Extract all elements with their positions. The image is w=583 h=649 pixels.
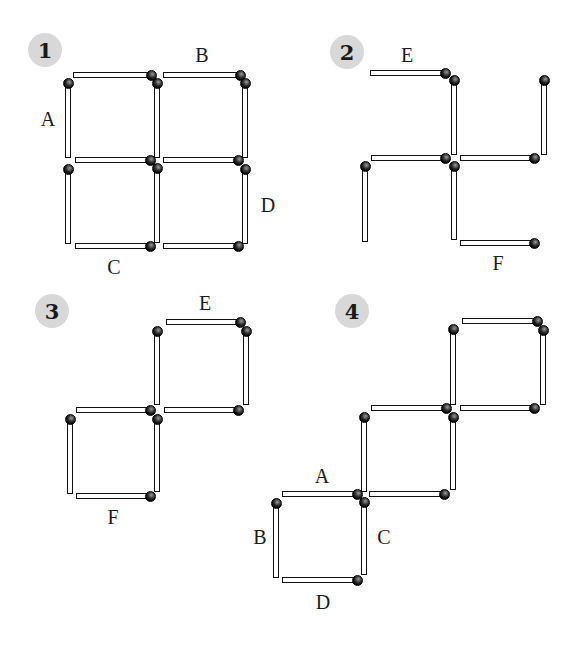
match-head-icon bbox=[360, 161, 371, 172]
matchstick bbox=[450, 328, 456, 405]
match-head-icon bbox=[240, 78, 251, 89]
matchstick bbox=[65, 168, 71, 244]
matchstick-label-d: D bbox=[316, 592, 330, 612]
matchstick-diagram: 1ABCD2EF3EF4ABCD bbox=[0, 0, 583, 649]
matchstick bbox=[73, 72, 152, 78]
figure-number-badge: 1 bbox=[28, 33, 62, 67]
matchstick bbox=[361, 501, 367, 575]
matchstick bbox=[242, 168, 248, 244]
match-head-icon bbox=[152, 163, 163, 174]
match-head-icon bbox=[449, 75, 460, 86]
match-head-icon bbox=[241, 326, 252, 337]
matchstick bbox=[273, 502, 279, 578]
figure-number-badge: 3 bbox=[35, 294, 69, 328]
match-head-icon bbox=[240, 164, 251, 175]
matchstick bbox=[242, 82, 248, 158]
match-head-icon bbox=[152, 78, 163, 89]
matchstick bbox=[76, 407, 151, 413]
match-head-icon bbox=[529, 238, 540, 249]
match-head-icon bbox=[359, 412, 370, 423]
match-head-icon bbox=[440, 153, 451, 164]
match-head-icon bbox=[145, 241, 156, 252]
matchstick bbox=[451, 165, 457, 240]
matchstick bbox=[282, 491, 358, 497]
figure-number-badge: 2 bbox=[330, 35, 364, 69]
matchstick bbox=[451, 79, 457, 155]
matchstick-label-f: F bbox=[107, 507, 118, 527]
match-head-icon bbox=[145, 491, 156, 502]
matchstick bbox=[361, 416, 367, 492]
matchstick-label-c: C bbox=[107, 257, 120, 277]
match-head-icon bbox=[233, 241, 244, 252]
matchstick bbox=[462, 318, 538, 324]
matchstick bbox=[460, 405, 535, 411]
matchstick bbox=[154, 82, 160, 158]
matchstick-label-a: A bbox=[41, 109, 55, 129]
match-head-icon bbox=[152, 414, 163, 425]
figure-number-badge: 4 bbox=[335, 294, 369, 328]
matchstick bbox=[166, 319, 241, 325]
matchstick-label-e: E bbox=[401, 45, 413, 65]
match-head-icon bbox=[448, 412, 459, 423]
matchstick-label-f: F bbox=[492, 253, 503, 273]
matchstick bbox=[163, 157, 239, 163]
match-head-icon bbox=[539, 75, 550, 86]
match-head-icon bbox=[439, 489, 450, 500]
matchstick bbox=[154, 330, 160, 405]
match-head-icon bbox=[271, 498, 282, 509]
match-head-icon bbox=[538, 325, 549, 336]
match-head-icon bbox=[63, 78, 74, 89]
matchstick bbox=[76, 493, 151, 499]
matchstick bbox=[450, 416, 456, 490]
matchstick bbox=[243, 330, 249, 405]
matchstick bbox=[163, 72, 241, 78]
matchstick-label-b: B bbox=[195, 45, 208, 65]
matchstick bbox=[540, 329, 546, 405]
matchstick bbox=[282, 577, 358, 583]
matchstick bbox=[460, 240, 535, 246]
match-head-icon bbox=[152, 326, 163, 337]
matchstick bbox=[370, 70, 446, 76]
matchstick bbox=[460, 155, 535, 161]
matchstick bbox=[67, 418, 73, 494]
matchstick bbox=[163, 243, 239, 249]
matchstick bbox=[541, 79, 547, 155]
match-head-icon bbox=[233, 405, 244, 416]
matchstick bbox=[154, 167, 160, 243]
match-head-icon bbox=[352, 575, 363, 586]
matchstick bbox=[362, 165, 368, 242]
matchstick bbox=[369, 491, 445, 497]
match-head-icon bbox=[529, 153, 540, 164]
match-head-icon bbox=[529, 403, 540, 414]
matchstick bbox=[371, 405, 447, 411]
match-head-icon bbox=[359, 497, 370, 508]
matchstick bbox=[75, 157, 151, 163]
matchstick-label-c: C bbox=[377, 527, 390, 547]
matchstick-label-a: A bbox=[315, 466, 329, 486]
matchstick bbox=[154, 418, 160, 492]
matchstick bbox=[75, 243, 151, 249]
matchstick-label-d: D bbox=[261, 195, 275, 215]
match-head-icon bbox=[449, 161, 460, 172]
match-head-icon bbox=[63, 164, 74, 175]
matchstick-label-b: B bbox=[253, 527, 266, 547]
matchstick bbox=[371, 155, 446, 161]
matchstick-label-e: E bbox=[199, 293, 211, 313]
matchstick bbox=[164, 407, 239, 413]
match-head-icon bbox=[448, 324, 459, 335]
matchstick bbox=[65, 82, 71, 158]
match-head-icon bbox=[65, 414, 76, 425]
